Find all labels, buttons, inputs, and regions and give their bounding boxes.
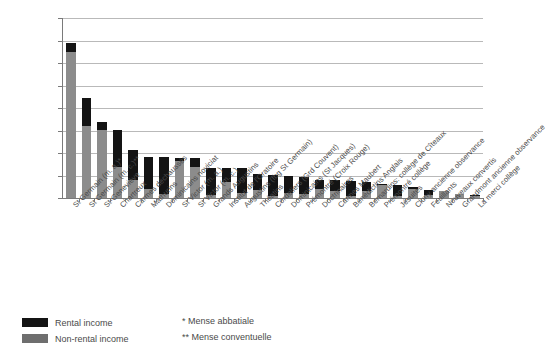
- x-tick-mark: [94, 198, 95, 202]
- x-tick-mark: [110, 198, 111, 202]
- x-tick-mark: [219, 198, 220, 202]
- x-tick-mark: [452, 198, 453, 202]
- x-tick-mark: [265, 198, 266, 202]
- x-tick-mark: [79, 198, 80, 202]
- x-tick-mark: [436, 198, 437, 202]
- chart-footnotes: * Mense abbatiale ** Mense conventuelle: [182, 316, 272, 348]
- x-tick-mark: [187, 198, 188, 202]
- x-tick-mark: [467, 198, 468, 202]
- x-tick-mark: [421, 198, 422, 202]
- x-tick-mark: [250, 198, 251, 202]
- x-tick-mark: [343, 198, 344, 202]
- y-tick-mark: [58, 198, 62, 199]
- x-tick-mark: [281, 198, 282, 202]
- x-tick-mark: [405, 198, 406, 202]
- x-tick-mark: [156, 198, 157, 202]
- x-tick-mark: [234, 198, 235, 202]
- x-tick-mark: [390, 198, 391, 202]
- y-tick-mark: [58, 63, 62, 64]
- footnote-mense-conventuelle: ** Mense conventuelle: [182, 332, 272, 345]
- legend-swatch-nonrental-icon: [22, 334, 48, 343]
- x-tick-mark: [125, 198, 126, 202]
- legend-label-nonrental: Non-rental income: [55, 334, 129, 344]
- legend-item-rental: Rental income: [22, 316, 129, 329]
- y-tick-mark: [58, 108, 62, 109]
- x-tick-mark: [312, 198, 313, 202]
- y-tick-mark: [58, 86, 62, 87]
- x-tick-mark: [203, 198, 204, 202]
- x-tick-mark: [141, 198, 142, 202]
- y-tick-mark: [58, 131, 62, 132]
- x-tick-mark: [172, 198, 173, 202]
- y-tick-mark: [58, 41, 62, 42]
- legend-swatch-rental-icon: [22, 318, 48, 327]
- x-axis-category-label: Grandmont ancienne observance: [460, 123, 547, 210]
- y-tick-mark: [58, 176, 62, 177]
- legend-label-rental: Rental income: [55, 318, 113, 328]
- x-tick-mark: [327, 198, 328, 202]
- y-tick-mark: [58, 18, 62, 19]
- x-tick-mark: [359, 198, 360, 202]
- x-tick-mark: [296, 198, 297, 202]
- x-tick-mark: [483, 198, 484, 202]
- x-tick-mark: [374, 198, 375, 202]
- y-tick-mark: [58, 153, 62, 154]
- footnote-mense-abbatiale: * Mense abbatiale: [182, 316, 272, 329]
- chart-legend: Rental income Non-rental income: [22, 316, 129, 348]
- legend-item-nonrental: Non-rental income: [22, 332, 129, 345]
